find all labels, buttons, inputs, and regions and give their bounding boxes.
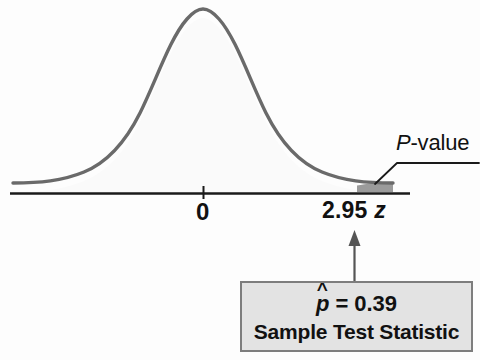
- p-value-label-italic-p: P: [396, 130, 410, 155]
- axis-tick-label-z-critical: 2.95 z: [322, 199, 386, 222]
- z-axis-symbol: z: [374, 197, 386, 223]
- statistics-figure: P-value 0 2.95 z ^p = 0.39 Sample Test S…: [0, 0, 480, 360]
- z-critical-value: 2.95: [322, 197, 368, 223]
- equals-sign: =: [335, 291, 348, 317]
- statistic-value: 0.39: [354, 291, 397, 317]
- p-hat-circumflex: ^: [317, 280, 328, 299]
- p-value-label-suffix: -value: [410, 130, 469, 155]
- statistic-value-line: ^p = 0.39: [316, 289, 397, 317]
- axis-tick-label-zero: 0: [196, 200, 209, 224]
- sample-test-statistic-box: ^p = 0.39 Sample Test Statistic: [240, 281, 473, 352]
- p-value-label: P-value: [396, 132, 469, 154]
- statistic-caption: Sample Test Statistic: [254, 320, 459, 344]
- curve-fill-area: [13, 18, 393, 192]
- statistic-pointer-arrow: [349, 230, 361, 281]
- p-hat-symbol: ^p: [316, 289, 329, 317]
- p-value-leader-line: [375, 163, 479, 184]
